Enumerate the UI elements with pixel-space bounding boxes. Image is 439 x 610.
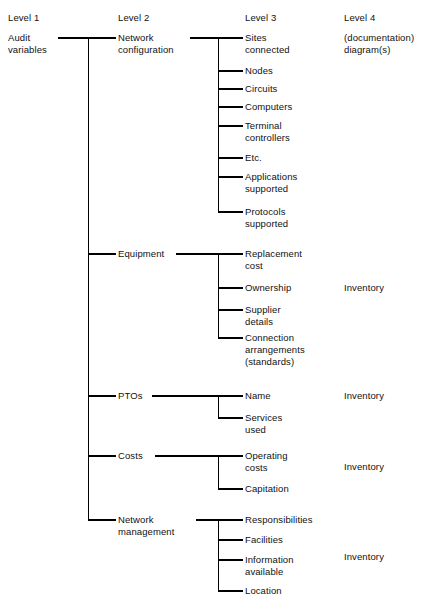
node-level3-services-used: Services used: [245, 412, 282, 436]
node-level3-computers: Computers: [245, 101, 292, 113]
node-level3-circuits: Circuits: [245, 83, 277, 95]
node-level3-facilities: Facilities: [245, 534, 283, 546]
column-header-level3: Level 3: [245, 12, 276, 24]
column-header-level4: Level 4: [344, 12, 375, 24]
node-level3-replacement-cost: Replacement cost: [245, 248, 302, 272]
node-level3-nodes: Nodes: [245, 65, 273, 77]
column-header-level2: Level 2: [118, 12, 149, 24]
node-level4-inventory-network-management: Inventory: [344, 551, 384, 563]
node-level3-applications-supported: Applications supported: [245, 171, 297, 195]
node-level2-costs: Costs: [118, 450, 143, 462]
node-level2-network-configuration: Network configuration: [118, 32, 174, 56]
node-level3-operating-costs: Operating costs: [245, 450, 288, 474]
node-level2-equipment: Equipment: [118, 248, 164, 260]
node-level3-protocols-supported: Protocols supported: [245, 206, 288, 230]
node-level3-capitation: Capitation: [245, 483, 289, 495]
tree-diagram-canvas: Level 1 Level 2 Level 3 Level 4 Audit va…: [0, 0, 439, 610]
node-root-audit-variables: Audit variables: [8, 32, 47, 56]
node-level3-location: Location: [245, 585, 282, 597]
node-level3-supplier-details: Supplier details: [245, 304, 281, 328]
node-level3-ownership: Ownership: [245, 282, 291, 294]
node-level2-network-management: Network management: [118, 514, 174, 538]
node-level3-name: Name: [245, 390, 271, 402]
node-level4-inventory-equipment: Inventory: [344, 282, 384, 294]
node-level3-terminal-controllers: Terminal controllers: [245, 120, 290, 144]
connector-lines: [0, 0, 439, 610]
node-level3-responsibilities: Responsibilities: [245, 514, 313, 526]
node-level3-connection-arrangements: Connection arrangements (standards): [245, 332, 305, 368]
node-level3-information-available: Information available: [245, 554, 294, 578]
level4-header-note: (documentation) diagram(s): [344, 32, 414, 56]
node-level2-ptos: PTOs: [118, 390, 143, 402]
node-level3-sites-connected: Sites connected: [245, 32, 290, 56]
node-level3-etc: Etc.: [245, 152, 262, 164]
column-header-level1: Level 1: [8, 12, 39, 24]
node-level4-inventory-ptos: Inventory: [344, 390, 384, 402]
node-level4-inventory-costs: Inventory: [344, 461, 384, 473]
